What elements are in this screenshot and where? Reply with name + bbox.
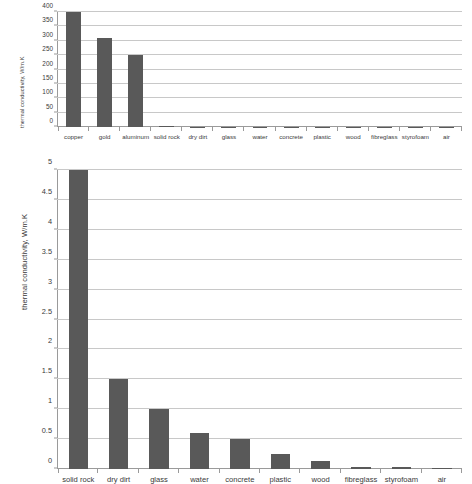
- x-tick: [422, 469, 462, 473]
- x-axis-ticks: [58, 127, 462, 131]
- bar-slot: [220, 170, 260, 469]
- x-axis-label: styrofoam: [400, 133, 431, 140]
- x-axis-label: fibreglass: [341, 475, 381, 484]
- x-axis-label: air: [431, 133, 462, 140]
- y-tick-label: 0: [49, 117, 53, 124]
- x-axis-labels: coppergoldaluminumsolid rockdry dirtglas…: [58, 133, 462, 140]
- bar: [109, 379, 128, 469]
- x-axis-label: concrete: [276, 133, 307, 140]
- x-axis-label: water: [244, 133, 275, 140]
- x-axis-label: air: [422, 475, 462, 484]
- x-tick: [220, 469, 260, 473]
- bar-slot: [120, 12, 151, 127]
- x-tick: [300, 469, 340, 473]
- x-axis-ticks: [58, 469, 462, 473]
- bar-series: [58, 12, 462, 127]
- y-tick-mark: [54, 25, 57, 26]
- thermal-conductivity-chart-metals: thermal conductivity, W/m.K 050100150200…: [0, 0, 472, 152]
- x-axis-label: dry dirt: [182, 133, 213, 140]
- y-axis-title: thermal conductivity, W/m.K: [20, 214, 29, 310]
- y-tick-mark: [54, 68, 57, 69]
- x-axis-label: solid rock: [58, 475, 98, 484]
- bar-slot: [338, 12, 369, 127]
- y-tick-mark: [54, 126, 57, 127]
- y-tick-label: 2: [48, 336, 52, 345]
- y-tick-mark: [54, 288, 57, 289]
- x-axis-label: wood: [338, 133, 369, 140]
- y-tick-label: 4: [48, 216, 52, 225]
- y-tick-mark: [54, 54, 57, 55]
- x-axis-label: water: [179, 475, 219, 484]
- y-tick-mark: [54, 318, 57, 319]
- x-tick: [213, 127, 244, 131]
- bar: [149, 409, 168, 469]
- y-tick-mark: [54, 111, 57, 112]
- y-tick-mark: [54, 228, 57, 229]
- bar-slot: [400, 12, 431, 127]
- y-tick-mark: [54, 198, 57, 199]
- x-tick: [98, 469, 138, 473]
- bar: [230, 439, 249, 469]
- y-axis-title: thermal conductivity, W/m.K: [19, 56, 25, 128]
- y-tick-mark: [54, 39, 57, 40]
- bar-slot: [151, 12, 182, 127]
- x-axis-label: dry dirt: [98, 475, 138, 484]
- bar-slot: [276, 12, 307, 127]
- x-axis-labels: solid rockdry dirtglasswaterconcreteplas…: [58, 475, 462, 484]
- plot-area: 00.511.522.533.544.55 solid rockdry dirt…: [57, 170, 462, 469]
- y-tick-mark: [54, 408, 57, 409]
- bar-slot: [381, 170, 421, 469]
- bar: [66, 12, 81, 127]
- bar: [97, 38, 112, 127]
- x-tick: [341, 469, 381, 473]
- bar: [311, 461, 330, 469]
- y-tick-label: 0.5: [42, 426, 52, 435]
- bar-slot: [244, 12, 275, 127]
- bar-slot: [213, 12, 244, 127]
- bar: [271, 454, 290, 469]
- bar-slot: [260, 170, 300, 469]
- x-axis-label: glass: [139, 475, 179, 484]
- y-tick-label: 250: [42, 45, 53, 52]
- x-tick: [120, 127, 151, 131]
- bar-slot: [431, 12, 462, 127]
- y-tick-mark: [54, 438, 57, 439]
- bar: [69, 170, 88, 469]
- y-tick-mark: [54, 82, 57, 83]
- x-tick: [89, 127, 120, 131]
- y-tick-mark: [54, 169, 57, 170]
- bar-slot: [179, 170, 219, 469]
- x-axis-label: styrofoam: [381, 475, 421, 484]
- x-tick: [381, 469, 421, 473]
- bar-slot: [182, 12, 213, 127]
- thermal-conductivity-chart-nonmetals: thermal conductivity, W/m.K 00.511.522.5…: [0, 158, 472, 339]
- x-tick: [182, 127, 213, 131]
- bar-series: [58, 170, 462, 469]
- x-tick: [151, 127, 182, 131]
- x-axis-label: concrete: [220, 475, 260, 484]
- x-axis-label: aluminum: [120, 133, 151, 140]
- bar-slot: [422, 170, 462, 469]
- bar-slot: [307, 12, 338, 127]
- y-tick-label: 3: [48, 276, 52, 285]
- x-tick: [400, 127, 431, 131]
- bar-slot: [139, 170, 179, 469]
- x-tick: [179, 469, 219, 473]
- bar-slot: [58, 170, 98, 469]
- y-tick-label: 400: [42, 2, 53, 9]
- y-tick-label: 4.5: [42, 186, 52, 195]
- x-axis-label: plastic: [307, 133, 338, 140]
- bar-slot: [58, 12, 89, 127]
- bar: [190, 433, 209, 469]
- y-tick-label: 300: [42, 30, 53, 37]
- x-axis-label: copper: [58, 133, 89, 140]
- bar-slot: [300, 170, 340, 469]
- x-axis-label: glass: [213, 133, 244, 140]
- x-tick: [260, 469, 300, 473]
- x-tick: [244, 127, 275, 131]
- y-tick-mark: [54, 11, 57, 12]
- bar-slot: [98, 170, 138, 469]
- x-axis-label: fibreglass: [369, 133, 400, 140]
- y-tick-label: 5: [48, 157, 52, 166]
- x-tick: [431, 127, 462, 131]
